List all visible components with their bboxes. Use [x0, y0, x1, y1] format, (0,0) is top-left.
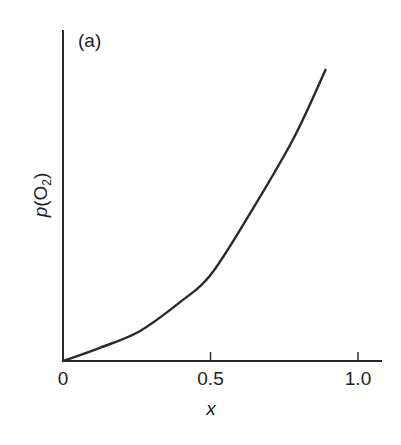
x-tick-label: 0 — [58, 368, 69, 390]
y-axis-label: p(O2) — [30, 173, 55, 218]
y-label-p: p — [30, 207, 51, 218]
x-tick-label: 0.5 — [197, 368, 223, 390]
x-axis-label: x — [206, 398, 216, 420]
y-label-close: ) — [30, 173, 51, 179]
data-curve — [63, 70, 326, 361]
x-ticks — [211, 352, 359, 361]
x-tick-label: 1.0 — [345, 368, 371, 390]
y-label-sub: 2 — [40, 179, 54, 186]
y-label-open: (O — [30, 186, 51, 207]
panel-label: (a) — [78, 30, 101, 52]
